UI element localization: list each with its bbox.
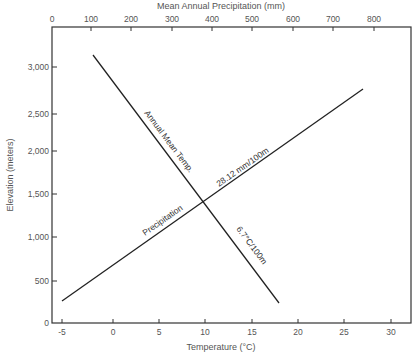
x-tick-label: 10 — [200, 327, 210, 337]
y-tick-label: 2,000 — [28, 146, 50, 156]
x2-tick-label: 100 — [84, 14, 98, 24]
x2-tick-label: 800 — [367, 14, 381, 24]
x2-tick-label: 500 — [245, 14, 259, 24]
x-tick-label: 20 — [293, 327, 303, 337]
x-tick-label: 25 — [339, 327, 349, 337]
x-tick-label: 30 — [386, 327, 396, 337]
left-axis — [52, 67, 57, 281]
y-axis-title: Elevation (meters) — [5, 138, 15, 211]
x-axis-title: Temperature (°C) — [186, 342, 255, 352]
x2-tick-label: 300 — [165, 14, 179, 24]
x-tick-label: -5 — [58, 327, 66, 337]
x-tick-label: 15 — [247, 327, 257, 337]
bottom-axis-labels: -5 0 5 10 15 20 25 30 — [58, 327, 396, 337]
y-tick-label: 500 — [35, 276, 49, 286]
temperature-line — [93, 55, 279, 303]
x2-axis-title: Mean Annual Precipitation (mm) — [157, 1, 285, 11]
precipitation-rate-label: 28.12 mm/100m — [214, 145, 270, 188]
x2-tick-label: 400 — [205, 14, 219, 24]
x-tick-label: 0 — [111, 327, 116, 337]
y-tick-label: 1,000 — [28, 232, 50, 242]
temperature-rate-label: 6.7°C/100m — [234, 224, 269, 266]
y-tick-label: 0 — [44, 318, 49, 328]
chart: 0 100 200 300 400 500 600 700 800 Mean A… — [0, 0, 418, 356]
x2-tick-label: 600 — [286, 14, 300, 24]
y-tick-label: 2,500 — [28, 109, 50, 119]
x-tick-label: 5 — [157, 327, 162, 337]
x2-tick-label: 0 — [50, 14, 55, 24]
y-tick-label: 3,000 — [28, 62, 50, 72]
left-axis-labels: 0 500 1,000 1,500 2,000 2,500 3,000 — [28, 62, 50, 328]
x2-tick-label: 200 — [124, 14, 138, 24]
top-axis-labels: 0 100 200 300 400 500 600 700 800 — [50, 14, 382, 24]
x2-tick-label: 700 — [326, 14, 340, 24]
temperature-line-label: Annual Mean Temp. — [142, 108, 195, 174]
y-tick-label: 1,500 — [28, 189, 50, 199]
precipitation-line — [62, 89, 363, 301]
